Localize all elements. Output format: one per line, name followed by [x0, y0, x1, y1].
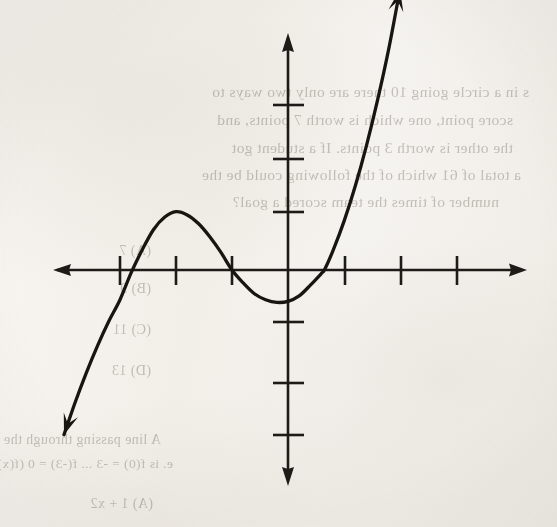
x-axis-left-arrowhead — [53, 264, 71, 276]
x-axis-right-arrowhead — [509, 264, 527, 277]
y-axis-bottom-arrowhead — [282, 467, 294, 486]
y-axis-top-arrowhead — [282, 33, 294, 52]
cubic-function-graph — [0, 0, 557, 527]
cubic-curve — [64, 0, 400, 435]
scanned-page: s in a circle going 10 there are only tw… — [0, 0, 557, 527]
